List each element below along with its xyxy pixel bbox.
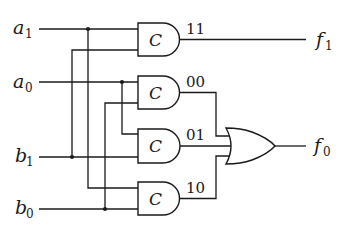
code-label-01: 01 — [186, 126, 205, 144]
gate-c-11: C — [138, 23, 180, 56]
gate-label: C — [149, 136, 162, 156]
gate-label: C — [149, 189, 162, 209]
svg-text:1: 1 — [25, 27, 33, 41]
input-label-b0: b 0 — [15, 196, 34, 221]
svg-text:1: 1 — [26, 155, 34, 169]
junction-a1 — [86, 27, 90, 31]
junction-b0 — [103, 207, 107, 211]
output-label-f1: f 1 — [314, 28, 333, 53]
gate-label: C — [149, 83, 162, 103]
wire-a1-to-g10 — [88, 29, 138, 188]
input-label-a0: a 0 — [13, 70, 33, 95]
gate-label: C — [149, 30, 162, 50]
output-label-f0: f 0 — [312, 134, 331, 159]
svg-text:0: 0 — [26, 207, 34, 221]
code-label-10: 10 — [186, 179, 205, 197]
junction-b1 — [70, 155, 74, 159]
code-label-00: 00 — [186, 73, 205, 91]
wire-a0-to-g01 — [122, 82, 138, 134]
svg-text:a: a — [13, 16, 24, 38]
gate-c-00: C — [138, 76, 180, 109]
svg-text:0: 0 — [323, 145, 331, 159]
code-label-11: 11 — [186, 20, 205, 38]
or-gate — [226, 128, 275, 164]
gate-c-10: C — [138, 182, 180, 215]
svg-text:1: 1 — [325, 39, 333, 53]
junction-a0 — [120, 80, 124, 84]
circuit-diagram: a 1 a 0 b 1 b 0 C C C C — [0, 0, 348, 235]
gate-c-01: C — [138, 129, 180, 163]
svg-text:0: 0 — [25, 81, 33, 95]
svg-text:a: a — [13, 70, 24, 92]
input-label-b1: b 1 — [15, 144, 34, 169]
input-label-a1: a 1 — [13, 16, 33, 41]
